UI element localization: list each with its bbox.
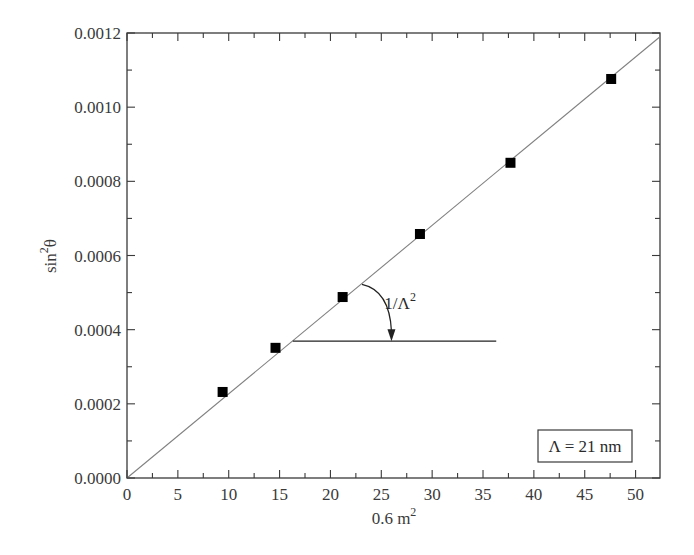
y-tick-label: 0.0010	[74, 98, 121, 117]
y-tick-label: 0.0006	[74, 247, 121, 266]
x-tick-label: 30	[424, 485, 441, 504]
angle-arc	[362, 284, 391, 331]
legend-box: Λ = 21 nm	[538, 430, 632, 462]
y-tick-label: 0.0002	[74, 395, 121, 414]
arrowhead-icon	[387, 329, 395, 341]
x-tick-label: 25	[373, 485, 390, 504]
x-axis-label: 0.6 m2	[372, 505, 417, 528]
data-point-marker	[218, 387, 228, 397]
data-point-marker	[415, 229, 425, 239]
y-tick-label: 0.0000	[74, 469, 121, 488]
data-point-marker	[606, 74, 616, 84]
y-tick-label: 0.0008	[74, 172, 121, 191]
x-tick-label: 0	[123, 485, 132, 504]
legend-text: Λ = 21 nm	[549, 437, 622, 456]
y-tick-label: 0.0004	[74, 321, 121, 340]
fit-line	[127, 37, 660, 478]
slope-label: 1/Λ2	[384, 290, 416, 313]
slope-annotation: 1/Λ2	[293, 284, 496, 341]
x-tick-label: 10	[220, 485, 237, 504]
x-tick-label: 35	[475, 485, 492, 504]
x-tick-label: 20	[322, 485, 339, 504]
data-point-marker	[271, 343, 281, 353]
chart: 1/Λ2 05101520253035404550 0.00000.00020.…	[0, 0, 694, 555]
linear-fit-line	[127, 37, 660, 478]
x-tick-label: 50	[627, 485, 644, 504]
x-tick-label: 40	[525, 485, 542, 504]
y-axis-label: sin2θ	[37, 239, 60, 273]
y-tick-label: 0.0012	[74, 24, 121, 43]
data-point-marker	[505, 158, 515, 168]
x-tick-label: 45	[576, 485, 593, 504]
x-tick-label: 15	[271, 485, 288, 504]
x-tick-label: 5	[174, 485, 183, 504]
y-axis-ticks: 0.00000.00020.00040.00060.00080.00100.00…	[74, 24, 660, 488]
data-point-marker	[338, 292, 348, 302]
